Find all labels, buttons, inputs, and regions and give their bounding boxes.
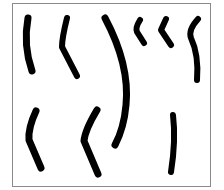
brush-stroke-1 — [26, 18, 32, 71]
brush-stroke-9 — [171, 115, 174, 172]
brush-stroke-5 — [161, 19, 171, 45]
brush-stroke-3 — [105, 18, 127, 145]
strokes-canvas — [0, 0, 224, 190]
brush-stroke-8 — [84, 110, 98, 174]
brush-stroke-2 — [62, 18, 77, 76]
brush-stroke-7 — [29, 111, 41, 168]
brush-stroke-4 — [136, 20, 144, 43]
brush-stroke-6 — [190, 19, 198, 80]
